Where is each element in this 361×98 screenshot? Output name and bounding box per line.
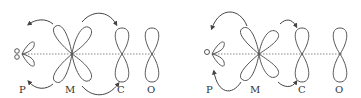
label-p: P (19, 84, 26, 95)
p-orbital-carbon (295, 28, 309, 82)
orbital-diagram-svg: P M C O (0, 0, 361, 98)
label-o: O (335, 84, 343, 95)
label-o: O (147, 84, 155, 95)
p-orbital-oxygen (333, 28, 347, 82)
p-orbital-oxygen (145, 28, 159, 82)
label-c: C (117, 84, 125, 95)
orbital-diagram-figure: P M C O (0, 0, 361, 98)
arrow-m-to-c-bottom (82, 84, 118, 95)
right-panel: P M C O (205, 12, 347, 95)
label-p: P (206, 84, 213, 95)
arrow-m-to-c-top (280, 20, 296, 26)
arrow-m-to-c-bottom (278, 82, 296, 87)
arrow-m-to-p-bottom (29, 82, 53, 88)
label-m: M (65, 84, 75, 95)
p-orbital-carbon (115, 28, 129, 82)
arrow-m-to-p-top (212, 12, 247, 28)
arrow-m-to-c-top (82, 13, 116, 24)
arrow-m-to-p-top (29, 20, 53, 24)
label-m: M (250, 84, 260, 95)
arrow-m-to-p-bottom (214, 72, 241, 91)
label-c: C (298, 84, 306, 95)
left-panel: P M C O (15, 13, 159, 95)
